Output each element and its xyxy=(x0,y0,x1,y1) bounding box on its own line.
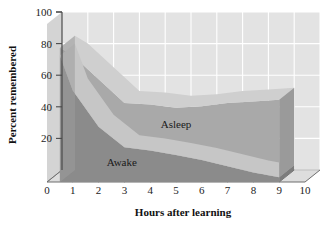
x-tick-label: 9 xyxy=(276,184,282,196)
y-tick-label: 60 xyxy=(41,69,53,81)
x-tick-label: 0 xyxy=(44,184,50,196)
x-axis-title: Hours after learning xyxy=(135,206,232,218)
x-tick-label: 4 xyxy=(147,184,153,196)
x-tick-label: 7 xyxy=(225,184,231,196)
series-label-awake: Awake xyxy=(107,156,137,168)
y-axis-title: Percent remembered xyxy=(6,46,18,144)
x-tick-label: 5 xyxy=(173,184,179,196)
endcap-asleep xyxy=(279,88,294,178)
x-tick-label: 8 xyxy=(251,184,257,196)
x-tick-label: 1 xyxy=(70,184,76,196)
y-tick-label: 40 xyxy=(41,101,53,113)
x-tick-label: 2 xyxy=(96,184,102,196)
y-tick-label: 20 xyxy=(41,132,53,144)
chart-container: 20406080100 012345678910 Hours after lea… xyxy=(0,0,335,230)
x-tick-label: 6 xyxy=(199,184,205,196)
series-label-asleep: Asleep xyxy=(161,118,192,130)
x-tick-label: 3 xyxy=(122,184,128,196)
x-tick-label: 10 xyxy=(300,184,312,196)
y-tick-label: 80 xyxy=(41,38,53,50)
y-tick-label: 100 xyxy=(36,6,53,18)
forgetting-curve-chart: 20406080100 012345678910 Hours after lea… xyxy=(0,0,335,230)
